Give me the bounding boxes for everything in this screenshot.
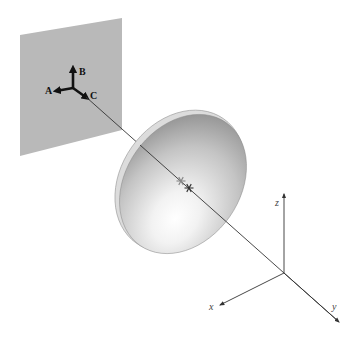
image-screen — [20, 18, 122, 156]
x-axis-label: x — [208, 301, 214, 312]
diagram-canvas: A B C x y z — [0, 0, 359, 345]
y-axis — [284, 273, 339, 322]
label-a: A — [45, 85, 53, 96]
z-axis-label: z — [274, 197, 279, 208]
label-c: C — [90, 90, 97, 101]
y-axis-label: y — [331, 301, 337, 312]
x-axis — [220, 273, 284, 305]
screen-panel — [20, 18, 122, 156]
label-b: B — [79, 66, 86, 77]
optics-diagram: A B C x y z — [0, 0, 359, 345]
